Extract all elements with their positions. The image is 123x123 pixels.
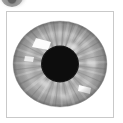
- iris-image: [7, 12, 113, 117]
- figure-stage: [0, 0, 123, 123]
- iris-figure-frame[interactable]: [6, 11, 114, 118]
- frame-corner-mask: [99, 103, 113, 117]
- pupil: [41, 46, 79, 83]
